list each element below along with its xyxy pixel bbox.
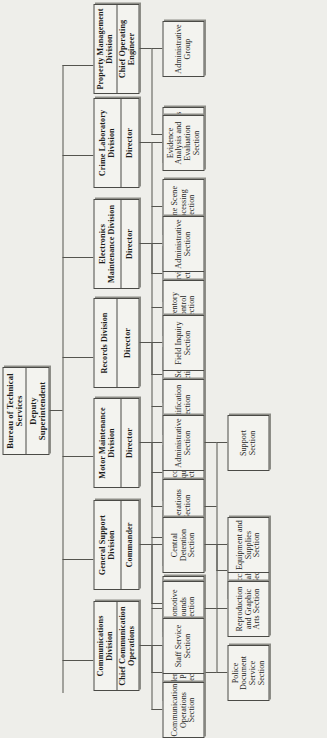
connector-div1-c0 bbox=[151, 142, 162, 143]
node-section-support[interactable]: Support Section bbox=[227, 415, 269, 471]
connector-div6-drop bbox=[62, 660, 93, 661]
section-label: Equipment and Supplies Section bbox=[228, 518, 268, 572]
connector-div3-c2 bbox=[151, 472, 162, 473]
connector-div5-c3 bbox=[216, 544, 227, 545]
section-label: Staff Service Section bbox=[163, 619, 203, 673]
node-division-motor-maintenance[interactable]: Motor Maintenance Division Director bbox=[93, 398, 139, 488]
division-title: Crime Laboratory Division bbox=[94, 99, 120, 187]
connector-div4-c1 bbox=[151, 506, 162, 507]
section-label: Administrative Group bbox=[163, 22, 203, 76]
connector-div5-drop bbox=[62, 559, 93, 560]
division-title: General Support Division bbox=[94, 501, 120, 589]
connector-div5-c2 bbox=[151, 672, 162, 673]
section-label: Police Document Service Section bbox=[228, 646, 268, 700]
division-role: Director bbox=[120, 399, 138, 487]
node-root[interactable]: Bureau of Technical Services Deputy Supe… bbox=[2, 367, 49, 455]
connector-div5-stem bbox=[139, 544, 151, 545]
connector-div6-c0 bbox=[151, 645, 162, 646]
section-label: Central Detention Section bbox=[163, 518, 203, 572]
connector-div4-c3 bbox=[216, 570, 227, 571]
connector-div0-c1 bbox=[151, 134, 162, 135]
connector-div1-drop bbox=[62, 155, 93, 156]
node-root-role: Deputy Superintendent bbox=[25, 368, 48, 454]
section-label: Communication Operations Section bbox=[163, 683, 203, 737]
node-section-central-detention[interactable]: Central Detention Section bbox=[162, 517, 204, 573]
connector-div3-c4 bbox=[151, 603, 162, 604]
node-division-communications[interactable]: Communications Division Chief Communicat… bbox=[93, 601, 139, 691]
connector-div4-row2-riser-a bbox=[204, 442, 216, 443]
division-title: Property Management Division bbox=[94, 5, 116, 93]
division-title: Motor Maintenance Division bbox=[94, 399, 120, 487]
connector-div1-stem bbox=[139, 142, 151, 143]
connector-div5-row2-riser-a bbox=[204, 544, 216, 545]
section-label: Administrative Section bbox=[163, 416, 203, 470]
connector-div5-c5 bbox=[216, 672, 227, 673]
connector-div2-c1 bbox=[151, 307, 162, 308]
section-label: Administrative Section bbox=[163, 217, 203, 271]
connector-div4-stem bbox=[139, 442, 151, 443]
section-label: Evidence Analysis and Evaluation Section bbox=[163, 116, 203, 170]
division-role: Director bbox=[120, 99, 138, 187]
division-role: Chief Operating Engineer bbox=[116, 5, 139, 93]
division-role: Director bbox=[120, 200, 138, 288]
node-section-staff-service[interactable]: Staff Service Section bbox=[162, 618, 204, 674]
connector-div5-row2-riser-b bbox=[204, 608, 216, 609]
node-division-records[interactable]: Records Division Director bbox=[93, 298, 139, 388]
connector-div4-c0 bbox=[151, 442, 162, 443]
connector-div1-c1 bbox=[151, 206, 162, 207]
node-section-communication-operations[interactable]: Communication Operations Section bbox=[162, 682, 204, 738]
connector-div3-c3 bbox=[151, 537, 162, 538]
node-division-electronics-maintenance[interactable]: Electronics Maintenance Division Directo… bbox=[93, 199, 139, 289]
connector-root-stem bbox=[49, 410, 62, 411]
node-section-field-inquiry[interactable]: Field Inquiry Section bbox=[162, 315, 204, 371]
node-section-administrative-electronics[interactable]: Administrative Section bbox=[162, 216, 204, 272]
connector-div3-c1 bbox=[151, 406, 162, 407]
node-section-equipment-supplies[interactable]: Equipment and Supplies Section bbox=[227, 517, 269, 573]
connector-div5-row2-riser-c bbox=[204, 672, 216, 673]
node-root-title: Bureau of Technical Services bbox=[3, 368, 25, 454]
connector-div0-c0 bbox=[151, 48, 162, 49]
connector-div5-c1 bbox=[151, 608, 162, 609]
connector-div6-stem bbox=[139, 645, 151, 646]
connector-div2-c2 bbox=[151, 374, 162, 375]
connector-div2-stem bbox=[139, 243, 151, 244]
section-label: Reproduction and Graphic Arts Section bbox=[228, 582, 268, 636]
connector-div6-c1 bbox=[151, 709, 162, 710]
connector-div3-drop bbox=[62, 357, 93, 358]
division-title: Communications Division bbox=[94, 602, 116, 690]
node-section-administrative-motor[interactable]: Administrative Section bbox=[162, 415, 204, 471]
connector-div0-stem bbox=[139, 48, 151, 49]
connector-div3-stem bbox=[139, 342, 151, 343]
node-section-administrative-group[interactable]: Administrative Group bbox=[162, 21, 204, 77]
node-division-property-management[interactable]: Property Management Division Chief Opera… bbox=[93, 4, 139, 94]
division-title: Electronics Maintenance Division bbox=[94, 200, 120, 288]
division-title: Records Division bbox=[94, 299, 116, 387]
connector-div4-c2 bbox=[216, 442, 227, 443]
division-role: Commander bbox=[120, 501, 138, 589]
connector-main-spine bbox=[62, 65, 63, 693]
connector-div3-c0 bbox=[151, 342, 162, 343]
connector-div0-drop bbox=[62, 65, 93, 66]
connector-div4-row2-riser-b bbox=[204, 506, 216, 507]
section-label: Support Section bbox=[228, 416, 268, 470]
division-role: Chief Communication Operations bbox=[116, 602, 139, 690]
node-division-crime-laboratory[interactable]: Crime Laboratory Division Director bbox=[93, 98, 139, 188]
node-section-police-document-service[interactable]: Police Document Service Section bbox=[227, 645, 269, 701]
connector-div2-c0 bbox=[151, 243, 162, 244]
node-section-reproduction-graphic-arts[interactable]: Reproduction and Graphic Arts Section bbox=[227, 581, 269, 637]
connector-div4-bus-top bbox=[151, 442, 152, 507]
connector-div5-c0 bbox=[151, 544, 162, 545]
division-role: Director bbox=[116, 299, 139, 387]
section-label: Field Inquiry Section bbox=[163, 316, 203, 370]
connector-div1-c2 bbox=[151, 273, 162, 274]
connector-div6-bus bbox=[151, 645, 152, 710]
connector-div4-drop bbox=[62, 456, 93, 457]
node-section-evidence-analysis-evaluation[interactable]: Evidence Analysis and Evaluation Section bbox=[162, 115, 204, 171]
connector-div5-c4 bbox=[216, 608, 227, 609]
connector-div0-bus bbox=[151, 48, 152, 135]
connector-div2-drop bbox=[62, 257, 93, 258]
node-division-general-support[interactable]: General Support Division Commander bbox=[93, 500, 139, 590]
